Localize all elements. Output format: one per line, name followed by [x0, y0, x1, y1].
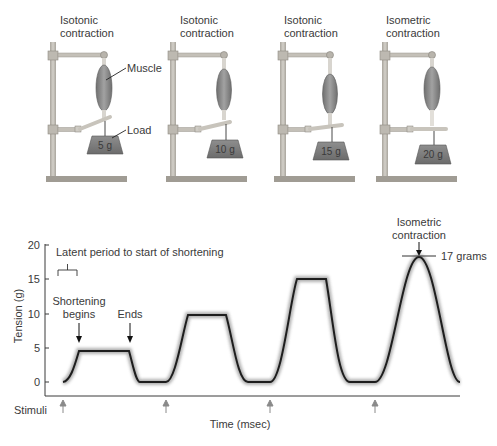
tendon-bottom: [328, 113, 332, 125]
muscle-icon: [323, 74, 338, 114]
tension-graph: 20 15 10 5 0 Tension (g) Time (msec) Sti…: [12, 216, 487, 430]
ends-arrow-icon: [127, 323, 133, 343]
apparatus-panel-3: Isotonic contraction 15 g: [274, 14, 355, 182]
weight-label: 10 g: [215, 144, 234, 155]
arm-top: [178, 53, 224, 57]
clamp-bottom: [278, 125, 288, 134]
stand-pole: [170, 42, 176, 176]
latent-bracket-icon: [58, 264, 77, 276]
stand-base: [274, 176, 355, 182]
stimulus-arrow-icon: [267, 400, 273, 413]
stimuli-label: Stimuli: [14, 404, 47, 416]
muscle-icon: [217, 69, 232, 111]
lever: [310, 125, 342, 129]
apparatus-panel-4: Isometric contraction 20 g: [376, 14, 457, 182]
arm-top: [390, 53, 432, 57]
apparatus-panel-2: Isotonic contraction 10 g: [166, 14, 247, 182]
weight-label: 20 g: [423, 149, 442, 160]
stand-base: [46, 176, 127, 182]
shortening-begins-line1: Shortening: [52, 295, 105, 307]
weight-label: 15 g: [321, 146, 340, 157]
muscle-callout: Muscle: [127, 62, 162, 74]
figure: Isotonic contraction 5 g Muscle Load Iso…: [0, 0, 497, 446]
panel-title-line2: contraction: [180, 27, 234, 39]
pivot-icon: [327, 52, 334, 59]
pivot-icon: [101, 52, 108, 59]
lever: [200, 122, 230, 129]
stand-pole: [280, 42, 286, 176]
apparatus-panel-1: Isotonic contraction 5 g Muscle Load: [46, 14, 162, 182]
isometric-label-line2: contraction: [392, 229, 446, 241]
clamp-top: [48, 51, 58, 60]
y-tick-20: 20: [28, 239, 40, 251]
load-callout: Load: [127, 124, 151, 136]
isometric-label-line1: Isometric: [397, 216, 442, 228]
shortening-begins-line2: begins: [63, 308, 96, 320]
stimulus-arrows: [60, 400, 378, 413]
y-axis-label: Tension (g): [12, 289, 24, 343]
tendon-top: [430, 58, 434, 68]
tendon-bottom: [430, 110, 434, 126]
panel-title-line1: Isotonic: [180, 14, 218, 26]
clamp-top: [380, 51, 390, 60]
y-ticks: [45, 245, 49, 382]
panel-title-line1: Isotonic: [60, 14, 98, 26]
x-axis-label: Time (msec): [210, 418, 271, 430]
clamp-top: [168, 51, 178, 60]
stimulus-arrow-icon: [372, 400, 378, 413]
arm-top: [58, 53, 104, 57]
stand-pole: [50, 42, 56, 176]
stand-base: [376, 176, 457, 182]
pivot-icon: [429, 52, 436, 59]
stand-pole: [382, 42, 388, 176]
tendon-top: [222, 58, 226, 70]
y-tick-10: 10: [28, 308, 40, 320]
clamp-bottom: [380, 125, 390, 134]
clamp-top: [278, 51, 288, 60]
shortening-begins-arrow-icon: [76, 323, 82, 343]
y-tick-5: 5: [34, 342, 40, 354]
tendon-bottom: [222, 110, 226, 120]
y-tick-15: 15: [28, 273, 40, 285]
panel-title-line1: Isometric: [386, 14, 431, 26]
ends-label: Ends: [117, 308, 143, 320]
tendon-top: [328, 58, 332, 74]
peak-label: 17 grams: [441, 250, 487, 262]
muscle-icon: [424, 67, 440, 111]
panel-title-line1: Isotonic: [284, 14, 322, 26]
clamp-bottom: [168, 125, 178, 134]
weight-label: 5 g: [98, 140, 112, 151]
latent-period-label: Latent period to start of shortening: [56, 246, 224, 258]
lever: [80, 117, 110, 129]
load-callout-line: [112, 130, 126, 138]
arm-top: [288, 53, 330, 57]
panel-title-line2: contraction: [60, 27, 114, 39]
panel-title-line2: contraction: [284, 27, 338, 39]
stimulus-arrow-icon: [163, 400, 169, 413]
stimulus-arrow-icon: [60, 400, 66, 413]
clamp-bottom: [48, 125, 58, 134]
panel-title-line2: contraction: [386, 27, 440, 39]
pivot-icon: [221, 52, 228, 59]
stand-base: [166, 176, 247, 182]
y-tick-0: 0: [34, 376, 40, 388]
muscle-icon: [96, 65, 112, 111]
isometric-arrow-icon: [416, 242, 422, 256]
